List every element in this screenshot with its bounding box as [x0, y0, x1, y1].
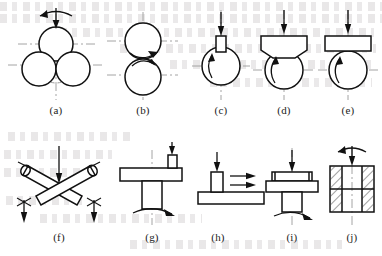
- pin: [211, 172, 223, 192]
- panel-f-crossed-cylinders: [17, 146, 101, 223]
- panel-c-pin-on-ball: [192, 10, 250, 100]
- caption-panel-j: (j): [332, 231, 372, 243]
- flat-plate: [198, 192, 264, 204]
- load-arrowhead: [349, 156, 355, 166]
- panel-b-ball-on-ball: [107, 12, 178, 100]
- caption-panel-e: (e): [328, 104, 368, 116]
- pin: [168, 155, 177, 168]
- upper-washer: [272, 172, 312, 181]
- shaft: [142, 181, 162, 209]
- lower-ball-left: [22, 52, 56, 86]
- figure-sheet: (a) (b) (c) (d) (e) (f) (g) (h) (i) (j): [0, 0, 382, 256]
- rotation-arrowhead: [302, 213, 313, 220]
- shaft: [282, 192, 302, 212]
- caption-panel-i: (i): [272, 231, 312, 243]
- caption-panel-c: (c): [201, 104, 241, 116]
- right-load-arrowhead: [91, 212, 97, 223]
- vee-block: [261, 36, 307, 58]
- caption-panel-a: (a): [36, 104, 76, 116]
- rotation-arrowhead: [164, 209, 175, 216]
- left-load-arrowhead: [21, 212, 27, 223]
- lower-ball-right: [56, 52, 90, 86]
- rotation-arrowhead: [40, 10, 48, 18]
- caption-panel-d: (d): [264, 104, 304, 116]
- lower-collar: [266, 181, 318, 192]
- pin: [216, 36, 226, 52]
- panel-e-flat-on-ball: [318, 10, 378, 100]
- panel-g-pin-on-disc: [120, 142, 182, 225]
- caption-panel-h: (h): [198, 231, 238, 243]
- disc: [120, 168, 182, 181]
- panel-j-block-in-bore: [330, 146, 374, 228]
- reciprocating-arrowhead-lower: [246, 182, 256, 188]
- rotation-arrowhead: [338, 146, 346, 154]
- caption-panel-g: (g): [132, 231, 172, 243]
- panel-h-pin-on-flat: [198, 152, 264, 204]
- load-arrowhead: [218, 26, 224, 36]
- load-arrowhead: [345, 24, 351, 34]
- load-arrowhead: [214, 162, 220, 172]
- load-arrowhead: [169, 146, 175, 155]
- lower-ball: [125, 59, 161, 95]
- caption-panel-f: (f): [39, 231, 79, 243]
- panel-i-thrust-washer: [266, 148, 318, 228]
- reciprocating-arrowhead-upper: [246, 173, 256, 179]
- caption-panel-b: (b): [123, 104, 163, 116]
- load-arrowhead: [289, 162, 295, 172]
- flat-block: [325, 36, 371, 51]
- panel-d-vee-block-on-ball: [253, 10, 315, 100]
- panel-a-four-ball: [8, 8, 104, 100]
- load-arrowhead: [281, 24, 287, 34]
- tribology-contact-diagram: [0, 0, 382, 256]
